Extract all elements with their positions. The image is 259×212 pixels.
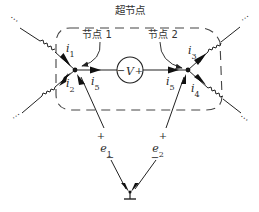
i5-left-arrow [90, 67, 101, 74]
ground-icon [121, 183, 139, 199]
current-i3-label: i3 [188, 44, 197, 61]
ellipsis-top-left: ⋯ [8, 13, 21, 26]
ellipsis-bottom-right: ⋯ [238, 112, 251, 125]
e2-plus: + [159, 130, 167, 141]
node2-label: 节点 2 [148, 29, 178, 40]
voltage-source-minus: − [117, 65, 125, 76]
node2-pointer-arrow [160, 42, 182, 68]
node1-pointer-arrow [82, 42, 100, 66]
e2-minus: − [151, 152, 159, 163]
resistor-icon [208, 43, 221, 52]
current-i5-left-label: i5 [91, 75, 100, 92]
node1-label: 节点 1 [82, 29, 112, 40]
resistor-icon [42, 87, 55, 96]
source-e1-branch: + e1 − [77, 74, 126, 189]
supernode-label: 超节点 [115, 4, 145, 16]
voltage-source-label: V [126, 65, 135, 78]
e1-minus: − [106, 152, 114, 163]
e1-plus: + [97, 130, 105, 141]
voltage-source-plus: + [135, 65, 143, 76]
source-e2-branch: + e2 − [135, 74, 186, 189]
current-i2-label: i2 [66, 77, 75, 94]
branch-i1: ⋯ [8, 13, 75, 70]
i5-right-arrow [168, 67, 179, 74]
resistor-icon [208, 87, 223, 97]
ellipsis-bottom-left: ⋯ [9, 110, 22, 123]
ellipsis-top-right: ⋯ [238, 12, 251, 25]
current-i4-label: i4 [191, 82, 200, 99]
current-i5-right-label: i5 [166, 75, 175, 92]
resistor-icon [40, 40, 55, 50]
current-i1-label: i1 [66, 42, 75, 59]
supernode-circuit-diagram: 超节点 节点 1 节点 2 − V + ⋯ ⋯ ⋯ [0, 0, 259, 212]
